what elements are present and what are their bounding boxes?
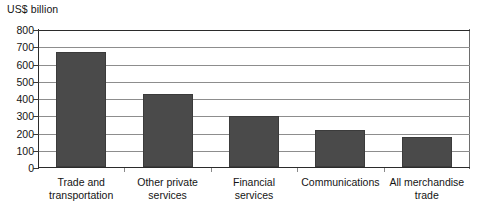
x-axis-line — [38, 167, 470, 168]
bar — [143, 94, 193, 167]
y-tick-mark-400 — [33, 99, 39, 100]
x-category-label-line: trade — [376, 189, 478, 202]
x-category-label-line: All merchandise — [376, 176, 478, 189]
y-tick-label-500: 500 — [0, 77, 34, 87]
bar-chart: 0100200300400500600700800 Trade andtrans… — [0, 0, 500, 219]
y-tick-mark-0 — [33, 168, 39, 169]
x-category-label: All merchandisetrade — [376, 176, 478, 201]
bar — [315, 130, 365, 167]
y-tick-mark-700 — [33, 47, 39, 48]
bar — [56, 52, 106, 167]
bar — [402, 137, 452, 167]
y-tick-label-200: 200 — [0, 129, 34, 139]
x-tick-mark — [384, 168, 385, 172]
bar — [229, 116, 279, 167]
y-tick-label-100: 100 — [0, 146, 34, 156]
y-tick-label-700: 700 — [0, 42, 34, 52]
x-tick-mark — [124, 168, 125, 172]
plot-area — [38, 30, 470, 168]
x-tick-mark — [211, 168, 212, 172]
y-tick-label-0: 0 — [0, 163, 34, 173]
y-tick-label-300: 300 — [0, 111, 34, 121]
y-tick-label-800: 800 — [0, 25, 34, 35]
x-category-label-line: services — [203, 189, 305, 202]
y-tick-mark-600 — [33, 65, 39, 66]
y-tick-mark-100 — [33, 151, 39, 152]
y-tick-mark-300 — [33, 116, 39, 117]
y-tick-label-400: 400 — [0, 94, 34, 104]
gridline-700 — [38, 47, 470, 48]
gridline-800 — [38, 30, 470, 31]
y-tick-mark-500 — [33, 82, 39, 83]
y-tick-label-600: 600 — [0, 60, 34, 70]
x-tick-mark — [297, 168, 298, 172]
y-tick-mark-800 — [33, 30, 39, 31]
y-tick-mark-200 — [33, 134, 39, 135]
